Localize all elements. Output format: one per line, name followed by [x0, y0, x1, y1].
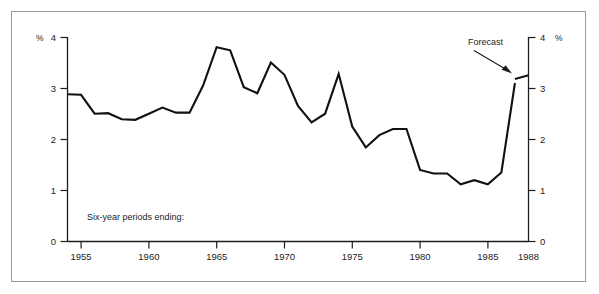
chart-note: Six-year periods ending:	[87, 212, 184, 222]
right-tick-label-3: 3	[540, 83, 545, 94]
line-chart: 4 3 2 1 0 % 4 3 2 1 0 %	[12, 12, 585, 281]
clipped-caption-strip	[0, 0, 599, 9]
x-tick-label-1985: 1985	[477, 251, 498, 262]
left-tick-label-1: 1	[51, 185, 56, 196]
x-tick-label-1965: 1965	[206, 251, 227, 262]
x-tick-label-1988: 1988	[518, 251, 539, 262]
right-tick-label-4: 4	[540, 32, 545, 43]
left-axis-tick-labels: 4 3 2 1 0	[51, 32, 56, 247]
data-line-forecast	[515, 75, 529, 79]
x-tick-label-1975: 1975	[342, 251, 363, 262]
right-axis-ticks	[529, 38, 536, 242]
x-axis-tick-labels: 1955 1960 1965 1970 1975 1980 1985 1988	[71, 251, 540, 262]
left-tick-label-3: 3	[51, 83, 56, 94]
right-tick-label-2: 2	[540, 134, 545, 145]
left-tick-label-0: 0	[51, 236, 56, 247]
figure-canvas: 4 3 2 1 0 % 4 3 2 1 0 %	[0, 0, 599, 294]
forecast-annotation-label: Forecast	[468, 37, 504, 47]
data-line-main	[68, 47, 515, 184]
forecast-arrow-head	[502, 65, 513, 73]
left-tick-label-4: 4	[51, 32, 56, 43]
left-tick-label-2: 2	[51, 134, 56, 145]
right-tick-label-1: 1	[540, 185, 545, 196]
right-axis-tick-labels: 4 3 2 1 0	[540, 32, 545, 247]
chart-frame: 4 3 2 1 0 % 4 3 2 1 0 %	[11, 11, 586, 282]
x-axis-ticks	[81, 242, 488, 249]
left-axis-ticks	[61, 38, 68, 242]
left-axis-unit-label: %	[36, 33, 44, 43]
right-axis-unit-label: %	[555, 33, 563, 43]
right-tick-label-0: 0	[540, 236, 545, 247]
forecast-leader-line	[474, 51, 507, 71]
x-tick-label-1955: 1955	[71, 251, 92, 262]
x-tick-label-1960: 1960	[138, 251, 159, 262]
x-tick-label-1970: 1970	[274, 251, 295, 262]
x-tick-label-1980: 1980	[410, 251, 431, 262]
